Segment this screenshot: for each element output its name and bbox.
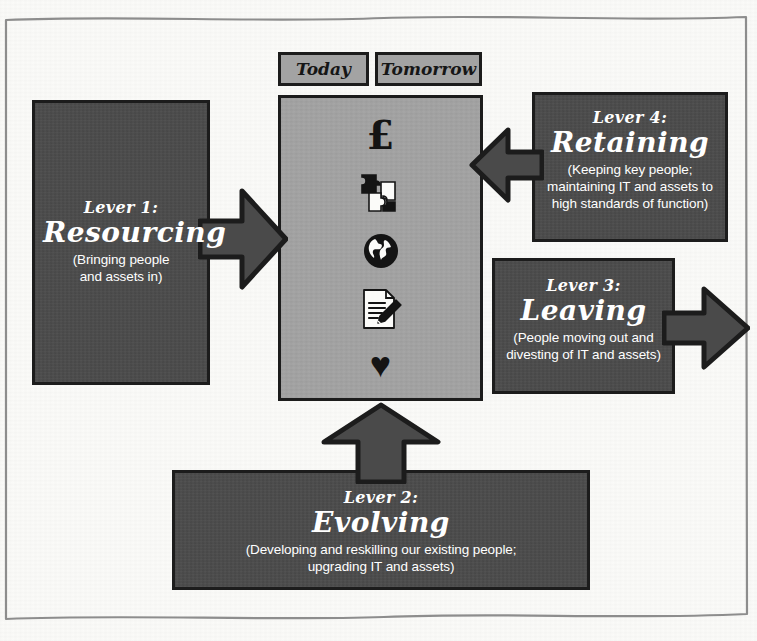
lever-3-desc-line-1: (People moving out and <box>503 330 664 347</box>
lever-2-box[interactable]: Lever 2: Evolving (Developing and reskil… <box>172 470 590 590</box>
lever-3-box[interactable]: Lever 3: Leaving (People moving out and … <box>492 258 675 394</box>
tab-today-label: Today <box>296 59 351 79</box>
lever-3-number: Lever 3: <box>503 277 664 295</box>
pound-sterling-icon: £ <box>367 115 395 155</box>
lever-4-number: Lever 4: <box>543 109 717 127</box>
lever-3-desc-line-2: divesting of IT and assets) <box>503 347 664 364</box>
tab-tomorrow[interactable]: Tomorrow <box>375 52 482 86</box>
lever-4-desc-line-3: high standards of function) <box>543 196 717 213</box>
globe-icon <box>362 232 400 270</box>
lever-3-arrow-right-icon <box>662 286 750 370</box>
lever-1-desc-line-1: (Bringing people <box>43 252 199 269</box>
lever-4-name: Retaining <box>543 128 717 158</box>
tab-today[interactable]: Today <box>278 52 369 86</box>
centre-organisation-column: £ ♥ <box>278 95 483 401</box>
lever-4-desc-line-2: maintaining IT and assets to <box>543 179 717 196</box>
lever-1-desc-line-2: and assets in) <box>43 269 199 286</box>
centre-icon-stack: £ ♥ <box>281 98 480 398</box>
puzzle-pieces-icon <box>359 172 403 214</box>
lever-2-desc-line-1: (Developing and reskilling our existing … <box>183 542 579 559</box>
lever-2-name: Evolving <box>183 508 579 538</box>
tab-tomorrow-label: Tomorrow <box>381 59 476 79</box>
lever-3-name: Leaving <box>503 296 664 326</box>
lever-1-box[interactable]: Lever 1: Resourcing (Bringing people and… <box>32 100 210 385</box>
heart-icon: ♥ <box>370 347 391 383</box>
lever-4-box[interactable]: Lever 4: Retaining (Keeping key people; … <box>532 92 728 242</box>
lever-1-name: Resourcing <box>43 218 199 248</box>
lever-2-desc-line-2: upgrading IT and assets) <box>183 559 579 576</box>
lever-2-arrow-up-icon <box>320 402 442 484</box>
lever-1-number: Lever 1: <box>43 199 199 217</box>
document-pencil-icon <box>360 288 402 330</box>
lever-2-number: Lever 2: <box>183 489 579 507</box>
lever-4-desc-line-1: (Keeping key people; <box>543 162 717 179</box>
